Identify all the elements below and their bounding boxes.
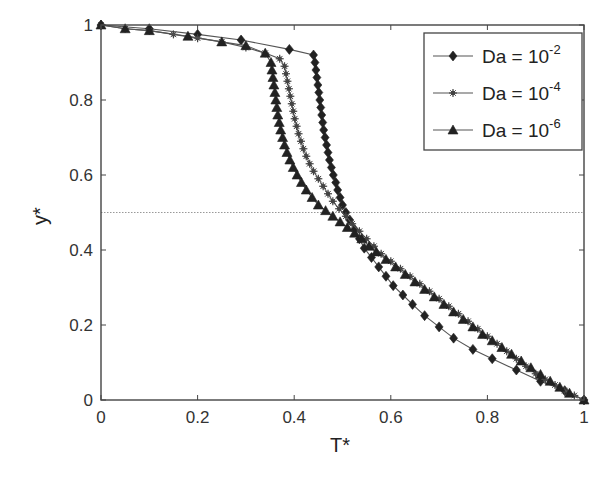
- legend: Da = 10-2Da = 10-4Da = 10-6: [424, 33, 582, 150]
- triangle-marker: [266, 58, 276, 67]
- legend-label: Da = 10-2: [482, 42, 561, 67]
- x-axis-label: T*: [330, 434, 350, 456]
- star-marker: [291, 115, 299, 123]
- y-tick-label: 0.4: [69, 241, 93, 260]
- x-tick-label: 1: [579, 408, 588, 427]
- diamond-marker: [285, 44, 293, 54]
- diamond-marker: [488, 354, 496, 364]
- star-marker: [449, 89, 457, 97]
- diamond-marker: [323, 140, 331, 150]
- star-marker: [329, 197, 337, 205]
- star-marker: [314, 175, 322, 183]
- star-marker: [295, 130, 303, 138]
- diamond-marker: [321, 133, 329, 143]
- star-marker: [319, 182, 327, 190]
- star-marker: [286, 92, 294, 100]
- diamond-marker: [320, 125, 328, 135]
- x-tick-labels: 00.20.40.60.81: [96, 408, 588, 427]
- x-tick-label: 0.2: [186, 408, 210, 427]
- diamond-marker: [450, 333, 458, 343]
- legend-label: Da = 10-4: [482, 79, 561, 104]
- star-marker: [281, 62, 289, 70]
- star-marker: [297, 137, 305, 145]
- star-marker: [335, 205, 343, 213]
- legend-label: Da = 10-6: [482, 116, 561, 141]
- y-tick-label: 0: [84, 391, 93, 410]
- star-marker: [306, 160, 314, 168]
- y-axis-label: y*: [29, 207, 51, 225]
- x-tick-label: 0.6: [379, 408, 403, 427]
- star-marker: [310, 167, 318, 175]
- diamond-marker: [237, 35, 245, 45]
- diamond-marker: [310, 50, 318, 60]
- star-marker: [285, 85, 293, 93]
- y-tick-label: 0.8: [69, 91, 93, 110]
- star-marker: [276, 55, 284, 63]
- star-marker: [293, 122, 301, 130]
- star-marker: [299, 145, 307, 153]
- diamond-marker: [324, 148, 332, 158]
- star-marker: [342, 212, 350, 220]
- diamond-marker: [512, 365, 520, 375]
- diamond-marker: [409, 299, 417, 309]
- x-tick-label: 0.4: [282, 408, 306, 427]
- y-tick-label: 0.2: [69, 316, 93, 335]
- diamond-marker: [435, 322, 443, 332]
- x-tick-label: 0: [96, 408, 105, 427]
- chart: 00.20.40.60.81 00.20.40.60.81 T* y* Da =…: [0, 0, 616, 480]
- star-marker: [282, 70, 290, 78]
- y-tick-label: 1: [84, 16, 93, 35]
- star-marker: [289, 107, 297, 115]
- y-tick-labels: 00.20.40.60.81: [69, 16, 93, 410]
- diamond-marker: [469, 344, 477, 354]
- star-marker: [288, 100, 296, 108]
- diamond-marker: [421, 311, 429, 321]
- star-marker: [302, 152, 310, 160]
- star-marker: [324, 190, 332, 198]
- star-marker: [283, 77, 291, 85]
- y-tick-label: 0.6: [69, 166, 93, 185]
- x-tick-label: 0.8: [476, 408, 500, 427]
